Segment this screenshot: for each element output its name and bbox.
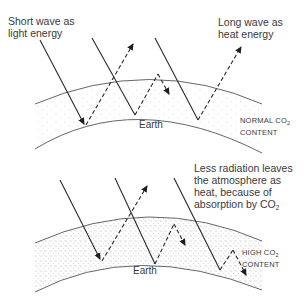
short-wave-label: Short wave as light energy [8, 15, 75, 39]
greenhouse-effect-diagram: Short wave as light energy Long wave as … [0, 0, 308, 304]
high-co2-line1: HIGH CO2 [242, 248, 280, 260]
bottom-earth-label: Earth [133, 265, 157, 277]
normal-co2-label: NORMAL CO2 CONTENT [240, 116, 290, 137]
high-co2-line2: CONTENT [242, 260, 280, 269]
short-wave-label-line2: light energy [8, 27, 75, 39]
top-atmosphere [30, 50, 270, 160]
caption-line1: Less radiation leaves [194, 162, 293, 174]
caption-line4: absorption by CO2 [194, 198, 293, 214]
caption-line2: the atmosphere as [194, 174, 293, 186]
caption-line3: heat, because of [194, 186, 293, 198]
long-wave-label-line2: heat energy [218, 28, 283, 40]
long-wave-label-line1: Long wave as [218, 16, 283, 28]
long-wave-label: Long wave as heat energy [218, 16, 283, 40]
normal-co2-line1: NORMAL CO2 [240, 116, 290, 128]
less-radiation-caption: Less radiation leaves the atmosphere as … [194, 162, 293, 214]
normal-co2-line2: CONTENT [240, 128, 290, 137]
short-wave-label-line1: Short wave as [8, 15, 75, 27]
high-co2-label: HIGH CO2 CONTENT [242, 248, 280, 269]
top-earth-label: Earth [139, 119, 163, 131]
